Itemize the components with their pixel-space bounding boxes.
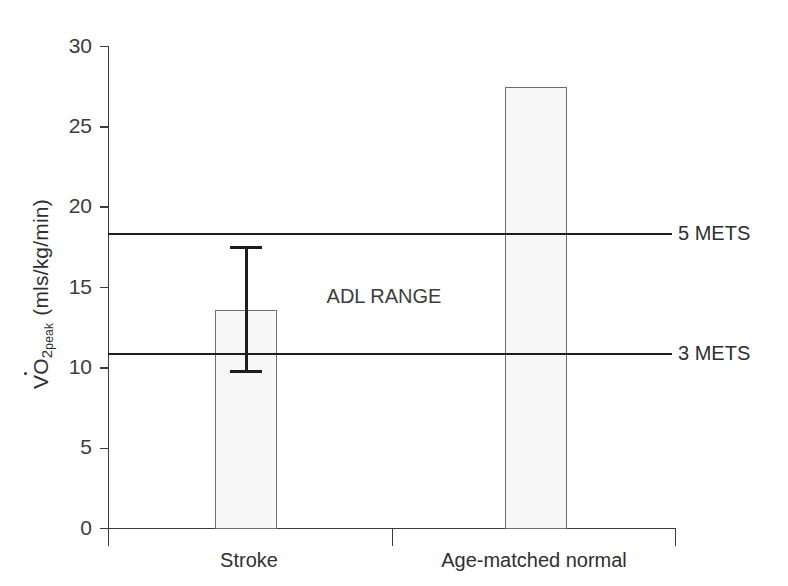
- y-tick-marks: [100, 47, 108, 529]
- x-category-labels: Stroke Age-matched normal: [220, 549, 627, 571]
- y-tick-label-25: 25: [69, 114, 92, 137]
- bars-group: [216, 88, 567, 529]
- x-tick-marks: [109, 528, 676, 546]
- chart-canvas: 30 25 20 15 10 5 0: [0, 0, 788, 586]
- chart-figure: 30 25 20 15 10 5 0: [0, 0, 788, 586]
- annotation-adl-range: ADL RANGE: [327, 285, 442, 307]
- reference-labels: 5 METS 3 METS: [678, 222, 750, 364]
- x-label-stroke: Stroke: [220, 549, 278, 571]
- y-tick-label-10: 10: [69, 355, 92, 378]
- y-tick-label-20: 20: [69, 194, 92, 217]
- y-tick-labels: 30 25 20 15 10 5 0: [69, 34, 92, 539]
- y-tick-label-0: 0: [80, 516, 92, 539]
- label-5-mets: 5 METS: [678, 222, 750, 244]
- y-tick-label-5: 5: [80, 435, 92, 458]
- y-tick-label-15: 15: [69, 275, 92, 298]
- label-3-mets: 3 METS: [678, 342, 750, 364]
- x-label-age-matched-normal: Age-matched normal: [441, 549, 627, 571]
- y-tick-label-30: 30: [69, 34, 92, 57]
- bar-age-matched-normal: [506, 88, 567, 529]
